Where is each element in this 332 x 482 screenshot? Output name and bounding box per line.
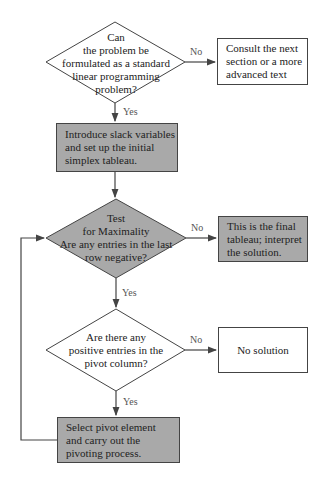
pivot-box: Select pivot element and carry out the p… — [57, 417, 180, 463]
edge-label-yes-2: Yes — [122, 287, 137, 298]
edge-label-yes-3: Yes — [123, 396, 138, 407]
introduce-slack-box: Introduce slack variables and set up the… — [56, 123, 178, 172]
no-solution-box: No solution — [218, 327, 308, 373]
decision-positive-text: Are there any positive entries in the pi… — [56, 325, 176, 375]
decision-maximality-text: Test for Maximality Are any entries in t… — [56, 208, 176, 268]
edge-label-no-2: No — [191, 222, 203, 233]
edge-label-no-3: No — [190, 334, 202, 345]
final-tableau-box: This is the final tableau; interpret the… — [218, 216, 308, 262]
edge-label-no-1: No — [190, 46, 202, 57]
decision-standard-text: Can the problem be formulated as a stand… — [56, 28, 176, 98]
consult-box: Consult the next section or a more advan… — [217, 38, 308, 85]
edge-label-yes-1: Yes — [123, 106, 138, 117]
